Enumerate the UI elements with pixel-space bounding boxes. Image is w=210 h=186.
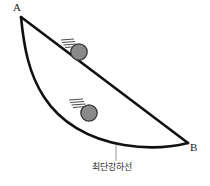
point-a-label: A — [13, 2, 21, 13]
ball-on-chord — [71, 44, 87, 60]
curve-caption: 최단강하선 — [92, 163, 132, 172]
ball-on-curve — [81, 105, 97, 121]
figure-canvas — [0, 0, 210, 186]
point-b-label: B — [190, 142, 197, 153]
straight-chord-path — [21, 17, 188, 143]
brachistochrone-figure: A B 최단강하선 — [0, 0, 210, 186]
